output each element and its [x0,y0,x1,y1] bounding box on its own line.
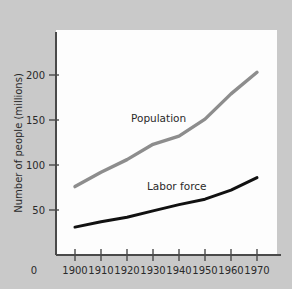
y-tick-label-100: 100 [26,160,45,171]
x-tick-label-1940: 1940 [166,265,191,276]
x-tick-label-0: 0 [31,265,37,276]
y-tick-label-50: 50 [32,205,45,216]
y-tick-label-150: 150 [26,115,45,126]
y-tick-label-200: 200 [26,70,45,81]
x-tick-label-1920: 1920 [114,265,139,276]
x-tick-label-1960: 1960 [218,265,243,276]
chart-canvas: 200 150 100 50 0 1900 1910 1920 1930 194… [0,0,292,289]
x-tick-label-1910: 1910 [88,265,113,276]
population-line [75,72,257,186]
y-axis-ticks [49,75,59,210]
x-tick-label-1970: 1970 [244,265,269,276]
x-tick-label-1930: 1930 [140,265,165,276]
x-tick-label-1900: 1900 [62,265,87,276]
line-chart-figure: 200 150 100 50 0 1900 1910 1920 1930 194… [0,0,292,289]
y-axis-title: Number of people (millions) [13,73,24,213]
x-tick-label-1950: 1950 [192,265,217,276]
labor-force-series-label: Labor force [147,180,206,192]
population-series-label: Population [131,112,186,124]
